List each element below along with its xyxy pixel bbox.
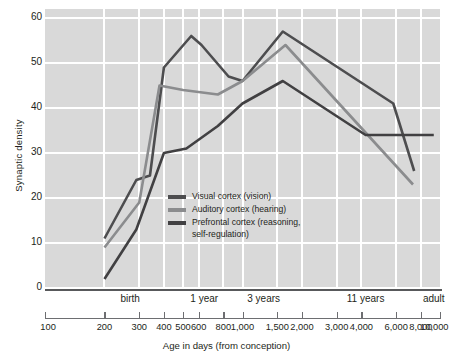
legend-label: Auditory cortex (hearing)	[192, 204, 286, 216]
ruler-tick	[440, 312, 441, 319]
x-axis-tick-label: 100	[40, 322, 56, 332]
x-axis-tick-label: 400	[156, 322, 172, 332]
series-lines	[0, 0, 453, 358]
x-axis-tick-label: 6,000	[385, 322, 408, 332]
stage-label-2: 3 years	[247, 293, 280, 304]
legend-item-1[interactable]: Auditory cortex (hearing)	[168, 204, 300, 216]
ruler-tick	[45, 312, 46, 319]
stage-label-4: adult	[423, 293, 445, 304]
x-axis-tick-label: 3,000	[325, 322, 348, 332]
numeric-ruler-line	[45, 318, 440, 319]
x-axis-line	[45, 289, 442, 291]
ruler-tick	[183, 312, 184, 318]
ruler-tick	[243, 312, 244, 318]
legend-item-2[interactable]: Prefrontal cortex (reasoning, self-regul…	[168, 217, 300, 240]
ruler-tick	[164, 312, 165, 318]
legend-label: Prefrontal cortex (reasoning, self-regul…	[192, 217, 300, 240]
x-axis-tick-label: 1,000	[231, 322, 254, 332]
legend-swatch-icon	[168, 221, 186, 225]
stage-label-0: birth	[120, 293, 139, 304]
ruler-tick	[396, 312, 397, 318]
ruler-tick	[337, 312, 338, 318]
ruler-tick	[139, 312, 140, 318]
x-axis-tick-label: 4,000	[350, 322, 373, 332]
stage-label-3: 11 years	[347, 293, 385, 304]
x-axis-tick-label: 2,000	[290, 322, 313, 332]
legend-swatch-icon	[168, 208, 186, 212]
ruler-tick	[104, 312, 105, 318]
legend-item-0[interactable]: Visual cortex (vision)	[168, 191, 300, 203]
ruler-tick	[277, 312, 278, 318]
stage-label-1: 1 year	[190, 293, 218, 304]
x-axis-tick-label: 500	[175, 322, 191, 332]
legend-swatch-icon	[168, 195, 186, 199]
legend-label: Visual cortex (vision)	[192, 191, 271, 203]
x-axis-tick-label: 800	[216, 322, 232, 332]
x-axis-tick-label: 10,000	[420, 322, 448, 332]
ruler-tick	[421, 312, 422, 318]
x-axis-tick-label: 200	[97, 322, 113, 332]
chart-figure: Synaptic density 0102030405060 Visual co…	[0, 0, 453, 358]
ruler-tick	[361, 312, 362, 318]
x-axis-tick-label: 600	[191, 322, 207, 332]
ruler-tick	[302, 312, 303, 318]
ruler-tick	[223, 312, 224, 318]
x-axis-tick-label: 1,500	[266, 322, 289, 332]
x-axis-title: Age in days (from conception)	[0, 340, 453, 351]
x-axis-tick-label: 300	[131, 322, 147, 332]
ruler-tick	[199, 312, 200, 318]
chart-legend: Visual cortex (vision)Auditory cortex (h…	[168, 191, 300, 242]
